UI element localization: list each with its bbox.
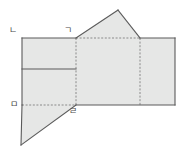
geometry-net-figure: ㄴ ㄱ ㅁ ㄹ [0,0,187,153]
top-triangle-face [76,10,140,38]
vertex-label-rieul: ㄹ [69,107,77,116]
vertex-label-mieum: ㅁ [10,100,18,109]
net-diagram-canvas [0,0,187,153]
center-rectangle-face [76,38,140,105]
vertex-label-giyeok: ㄱ [64,26,72,35]
vertex-label-nieun: ㄴ [9,26,17,35]
net-faces-group [21,10,175,145]
left-rectangle-face [22,38,76,105]
right-rectangle-face [140,38,175,105]
